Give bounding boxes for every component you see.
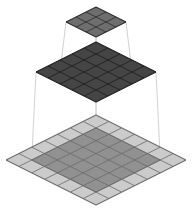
middle-layer-group [36, 42, 156, 102]
top-layer-surface [66, 7, 126, 37]
layer-stack-svg [0, 0, 192, 209]
diagram-canvas [0, 0, 192, 209]
top-layer-group [66, 7, 126, 37]
middle-layer-surface [36, 42, 156, 102]
